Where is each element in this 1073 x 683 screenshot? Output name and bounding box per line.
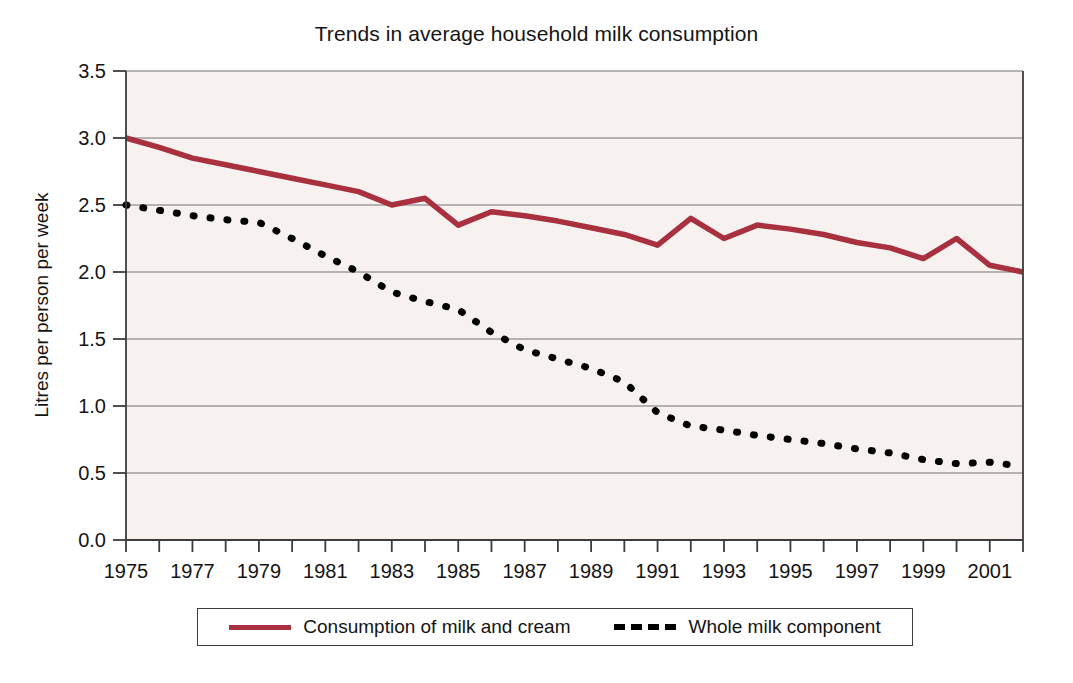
x-tick-label: 1999	[901, 560, 946, 582]
legend-label-consumption: Consumption of milk and cream	[303, 616, 570, 638]
legend-item-whole-milk: Whole milk component	[614, 616, 880, 638]
legend-swatch-dashed-line-icon	[614, 624, 676, 630]
x-tick-label: 1993	[702, 560, 747, 582]
x-tick-label: 1997	[835, 560, 880, 582]
legend-swatch-solid-line-icon	[229, 625, 291, 630]
chart-legend: Consumption of milk and cream Whole milk…	[197, 608, 913, 646]
x-tick-label: 2001	[968, 560, 1013, 582]
y-tick-label: 3.5	[78, 60, 106, 82]
y-tick-label: 0.5	[78, 462, 106, 484]
x-tick-label: 1977	[170, 560, 215, 582]
y-axis-tick-labels: 0.00.51.01.52.02.53.03.5	[78, 60, 106, 551]
legend-item-consumption: Consumption of milk and cream	[229, 616, 570, 638]
y-axis-label: Litres per person per week	[31, 192, 52, 417]
x-tick-label: 1975	[104, 560, 149, 582]
x-tick-label: 1983	[370, 560, 415, 582]
y-tick-label: 0.0	[78, 529, 106, 551]
x-tick-label: 1979	[237, 560, 282, 582]
legend-label-whole-milk: Whole milk component	[688, 616, 880, 638]
chart-figure: Trends in average household milk consump…	[0, 0, 1073, 683]
x-tick-label: 1991	[635, 560, 680, 582]
x-tick-label: 1981	[303, 560, 348, 582]
plot-area-wrapper: 0.00.51.01.52.02.53.03.5 197519771979198…	[0, 0, 1073, 600]
x-tick-marks	[126, 540, 1023, 552]
x-tick-label: 1987	[502, 560, 547, 582]
plot-background	[126, 71, 1023, 540]
x-axis-tick-labels: 1975197719791981198319851987198919911993…	[104, 560, 1012, 582]
x-tick-label: 1989	[569, 560, 614, 582]
y-tick-label: 2.5	[78, 194, 106, 216]
y-tick-label: 1.5	[78, 328, 106, 350]
y-tick-label: 2.0	[78, 261, 106, 283]
x-tick-label: 1985	[436, 560, 481, 582]
line-chart-plot: 0.00.51.01.52.02.53.03.5 197519771979198…	[0, 0, 1073, 600]
x-tick-label: 1995	[768, 560, 813, 582]
y-tick-marks	[113, 71, 126, 540]
y-tick-label: 1.0	[78, 395, 106, 417]
y-tick-label: 3.0	[78, 127, 106, 149]
